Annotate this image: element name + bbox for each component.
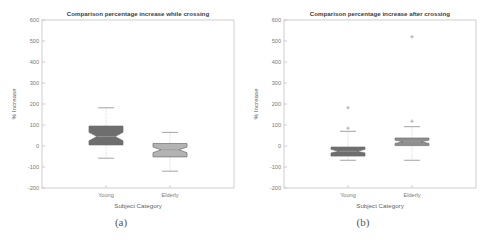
y-tick-label: 300: [30, 80, 39, 86]
y-tick-label: 200: [272, 101, 281, 107]
x-axis-label: Subject Category: [356, 202, 404, 209]
x-tick-label: Elderly: [161, 192, 178, 198]
y-tick-label: 400: [272, 59, 281, 65]
figure-row: Comparison percentage increase while cro…: [0, 0, 484, 240]
y-tick-label: 600: [30, 17, 39, 23]
boxplot-chart-b: Comparison percentage increase after cro…: [242, 0, 484, 215]
panel-a-caption: (a): [0, 216, 242, 228]
boxplot-chart-a: Comparison percentage increase while cro…: [0, 0, 242, 215]
y-tick-label: 100: [30, 122, 39, 128]
y-tick-label: 200: [30, 101, 39, 107]
y-tick-label: -200: [28, 185, 39, 191]
panel-a: Comparison percentage increase while cro…: [0, 0, 242, 240]
y-tick-label: -200: [270, 185, 281, 191]
x-tick-label: Young: [340, 192, 356, 198]
y-tick-label: 300: [272, 80, 281, 86]
y-axis-label: % Increase: [252, 88, 259, 120]
plot-frame: [42, 20, 234, 188]
x-tick-label: Young: [98, 192, 114, 198]
y-tick-label: -100: [270, 164, 281, 170]
panel-b-caption: (b): [242, 216, 484, 228]
x-axis-label: Subject Category: [114, 202, 162, 209]
panel-b: Comparison percentage increase after cro…: [242, 0, 484, 240]
y-tick-label: 600: [272, 17, 281, 23]
plot-frame: [284, 20, 476, 188]
y-tick-label: 500: [272, 38, 281, 44]
y-tick-label: 100: [272, 122, 281, 128]
y-tick-label: 0: [36, 143, 39, 149]
x-tick-label: Elderly: [403, 192, 420, 198]
y-tick-label: 500: [30, 38, 39, 44]
chart-title: Comparison percentage increase while cro…: [67, 10, 210, 17]
y-axis-label: % Increase: [10, 88, 17, 120]
y-tick-label: 0: [278, 143, 281, 149]
y-tick-label: 400: [30, 59, 39, 65]
chart-title: Comparison percentage increase after cro…: [310, 10, 451, 17]
y-tick-label: -100: [28, 164, 39, 170]
